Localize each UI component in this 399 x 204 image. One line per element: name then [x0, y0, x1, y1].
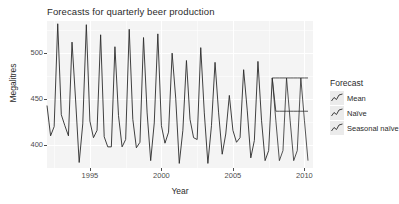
y-tick-mark	[44, 99, 47, 100]
x-tick-label: 1995	[70, 171, 110, 180]
series-lines	[47, 21, 313, 168]
x-tick-mark	[90, 168, 91, 171]
x-axis-title: Year	[47, 186, 313, 196]
x-tick-mark	[161, 168, 162, 171]
legend-item: Naïve	[330, 106, 399, 120]
legend-item: Seasonal naïve	[330, 121, 399, 135]
line-glyph-icon	[330, 91, 344, 105]
line-glyph-icon	[330, 121, 344, 135]
x-tick-label: 2005	[213, 171, 253, 180]
x-tick-label: 2010	[284, 171, 324, 180]
x-tick-mark	[304, 168, 305, 171]
gridline-y-minor	[47, 168, 313, 169]
y-axis-title: Megalitres	[8, 53, 18, 113]
legend-item-label: Seasonal naïve	[347, 124, 399, 133]
legend-title: Forecast	[330, 78, 399, 88]
y-tick-label: 400	[30, 140, 43, 149]
x-tick-label: 2000	[141, 171, 181, 180]
y-tick-mark	[44, 145, 47, 146]
legend-items: MeanNaïveSeasonal naïve	[330, 91, 399, 135]
series-line-observed	[47, 24, 272, 164]
y-tick-label: 500	[30, 48, 43, 57]
plot-panel	[47, 21, 313, 168]
legend: Forecast MeanNaïveSeasonal naïve	[330, 78, 399, 136]
legend-item-label: Naïve	[347, 109, 367, 118]
chart-title: Forecasts for quarterly beer production	[47, 6, 215, 17]
y-tick-mark	[44, 53, 47, 54]
legend-item-label: Mean	[347, 94, 366, 103]
line-glyph-icon	[330, 106, 344, 120]
y-tick-label: 450	[30, 94, 43, 103]
legend-item: Mean	[330, 91, 399, 105]
series-line-seasonal-naive	[272, 78, 308, 161]
x-tick-mark	[233, 168, 234, 171]
